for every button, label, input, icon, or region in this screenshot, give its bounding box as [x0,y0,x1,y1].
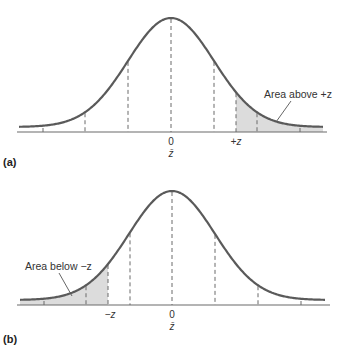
annotation-leader [276,101,291,122]
panel-a: 0 z̄ +z Area above +z (a) [3,18,332,168]
normal-distribution-figure: 0 z̄ +z Area above +z (a) 0 z̄ −z Area b… [0,0,344,350]
panel-label-b: (b) [3,333,17,345]
mean-zero-label: 0 [169,309,175,320]
z-label: −z [105,309,116,320]
mean-zero-label: 0 [168,136,174,147]
panel-label-a: (a) [3,156,17,168]
panel-b: 0 z̄ −z Area below −z (b) [3,191,330,345]
mean-symbol-label: z̄ [169,321,175,332]
annotation-leader [59,273,72,296]
z-label: +z [231,136,242,147]
annotation-area-below: Area below −z [25,260,92,272]
mean-symbol-label: z̄ [168,148,174,159]
annotation-area-above: Area above +z [264,88,332,100]
